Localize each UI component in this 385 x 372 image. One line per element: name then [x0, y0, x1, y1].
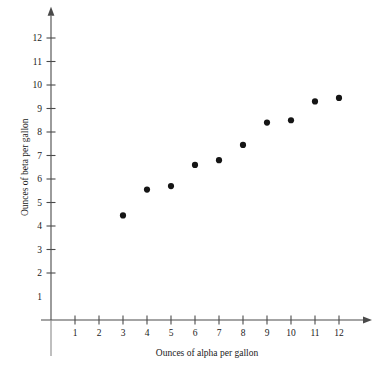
scatter-plot-figure: 123456789101112123456789101112Ounces of …: [0, 0, 385, 372]
x-axis-title: Ounces of alpha per gallon: [156, 348, 259, 358]
y-tick-label: 12: [33, 33, 43, 43]
x-tick-label: 2: [97, 328, 102, 338]
x-tick-label: 9: [265, 328, 270, 338]
data-point: [144, 186, 150, 192]
data-point: [216, 157, 222, 163]
data-point: [168, 183, 174, 189]
x-tick-label: 4: [145, 328, 150, 338]
y-axis-title: Ounces of beta per gallon: [20, 118, 30, 216]
y-tick-label: 6: [37, 174, 42, 184]
y-tick-label: 11: [33, 57, 42, 67]
y-tick-label: 8: [37, 127, 42, 137]
y-tick-label: 10: [33, 80, 43, 90]
data-point: [288, 117, 294, 123]
data-point: [336, 95, 342, 101]
x-tick-label: 11: [310, 328, 319, 338]
x-tick-label: 7: [217, 328, 222, 338]
x-tick-label: 8: [241, 328, 246, 338]
x-tick-label: 3: [121, 328, 126, 338]
y-tick-label: 1: [37, 292, 42, 302]
plot-canvas: 123456789101112123456789101112Ounces of …: [0, 0, 385, 372]
y-axis-arrow-icon: [48, 7, 55, 16]
x-tick-label: 1: [73, 328, 78, 338]
x-tick-label: 12: [334, 328, 344, 338]
y-tick-label: 4: [37, 221, 42, 231]
y-tick-label: 7: [37, 151, 42, 161]
data-point: [120, 212, 126, 218]
x-tick-label: 5: [169, 328, 174, 338]
y-tick-label: 3: [37, 245, 42, 255]
x-axis-arrow-icon: [363, 317, 372, 324]
x-tick-label: 6: [193, 328, 198, 338]
y-tick-label: 5: [37, 198, 42, 208]
y-tick-label: 2: [37, 268, 42, 278]
y-tick-label: 9: [37, 104, 42, 114]
data-point: [240, 142, 246, 148]
data-point: [312, 98, 318, 104]
data-point: [264, 120, 270, 126]
data-point: [192, 162, 198, 168]
x-tick-label: 10: [286, 328, 296, 338]
